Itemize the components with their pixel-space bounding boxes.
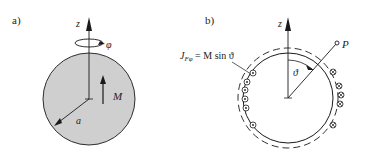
current-out-icon	[242, 96, 248, 102]
z-axis-arrowhead-icon	[86, 17, 92, 31]
z-axis-label-b: z	[277, 18, 282, 29]
current-out-icon	[243, 105, 249, 111]
current-out-icon	[250, 122, 256, 128]
z-axis-label: z	[75, 18, 80, 29]
current-density-label: JFφ = M sin ϑ	[180, 50, 234, 63]
point-p-marker	[335, 41, 339, 45]
rotation-label: φ	[106, 39, 112, 50]
panel-b-label: b)	[205, 14, 215, 27]
current-in-icon	[336, 83, 342, 89]
panel-a: a) z φ M a	[12, 14, 135, 145]
panel-a-label: a)	[12, 14, 21, 27]
current-in-icon	[338, 92, 344, 98]
panel-b: b) z P ϑ JFφ = M sin ϑ	[180, 14, 349, 148]
right-current-markers	[330, 69, 344, 128]
current-out-icon	[244, 79, 250, 85]
point-p-label: P	[341, 38, 349, 50]
current-in-icon	[330, 122, 336, 128]
z-axis-arrowhead-icon-b	[285, 17, 291, 31]
angle-label: ϑ	[293, 67, 299, 78]
current-in-icon	[330, 69, 336, 75]
current-density-expression: = M sin ϑ	[193, 50, 234, 61]
current-in-icon	[337, 101, 343, 107]
current-out-icon	[250, 70, 256, 76]
radius-label: a	[76, 115, 81, 126]
current-out-icon	[242, 87, 248, 93]
magnetized-sphere-diagram: a) z φ M a b) z	[0, 0, 365, 152]
magnetization-label: M	[112, 90, 123, 102]
left-current-markers	[242, 70, 256, 128]
current-density-subscript: Fφ	[183, 55, 192, 63]
